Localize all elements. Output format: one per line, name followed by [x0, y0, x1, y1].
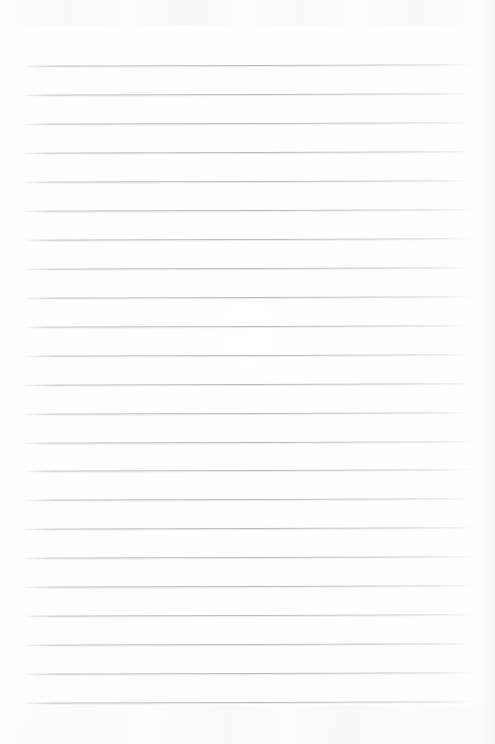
rule-line: [22, 296, 472, 298]
rule-line: [22, 412, 472, 414]
rule-line: [23, 585, 473, 587]
rule-line: [21, 93, 471, 95]
rule-line: [22, 527, 472, 529]
ruled-lines-layer: [0, 0, 495, 744]
rule-line: [21, 180, 471, 182]
scanned-page: [0, 0, 495, 744]
rule-line: [21, 151, 471, 153]
rule-line: [22, 267, 472, 269]
rule-line: [23, 701, 473, 703]
rule-line: [23, 672, 473, 674]
rule-line: [23, 556, 473, 558]
rule-line: [22, 354, 472, 356]
rule-line: [22, 498, 472, 500]
rule-line: [23, 614, 473, 616]
rule-line: [22, 238, 472, 240]
rule-line: [22, 441, 472, 443]
rule-line: [23, 643, 473, 645]
rule-line: [22, 325, 472, 327]
rule-line: [22, 383, 472, 385]
rule-line: [21, 64, 471, 66]
rule-line: [22, 209, 472, 211]
rule-line: [21, 122, 471, 124]
rule-line: [22, 469, 472, 471]
